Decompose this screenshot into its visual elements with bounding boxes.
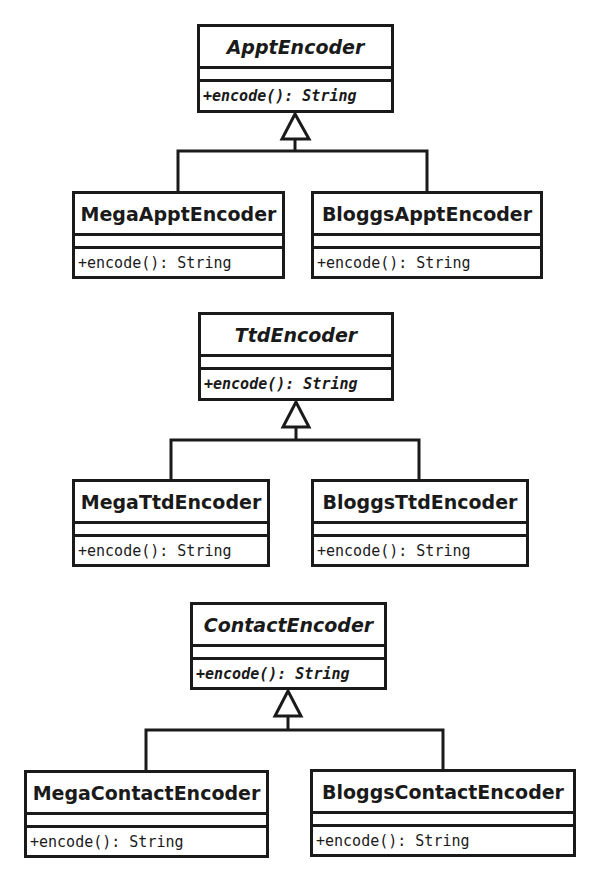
operation: +encode(): String [75,249,282,276]
class-ttd-encoder[interactable]: TtdEncoder +encode(): String [198,312,394,401]
attributes-compartment [313,814,573,827]
generalization-arrow-icon [275,691,301,716]
operation: +encode(): String [75,537,267,564]
generalization-arrow-icon [282,114,309,139]
class-mega-appt-encoder[interactable]: MegaApptEncoder +encode(): String [72,191,285,279]
operation: +encode(): String [201,370,391,398]
inheritance-connectors [0,0,599,888]
operation: +encode(): String [200,82,391,110]
class-name: MegaApptEncoder [75,194,282,236]
class-name: ContactEncoder [193,605,384,647]
class-mega-contact-encoder[interactable]: MegaContactEncoder +encode(): String [24,770,269,858]
attributes-compartment [201,357,391,370]
class-name: ApptEncoder [200,27,391,69]
attributes-compartment [314,236,540,249]
attributes-compartment [200,69,391,82]
attributes-compartment [75,236,282,249]
operation: +encode(): String [193,660,384,687]
class-name: MegaContactEncoder [27,773,266,815]
class-bloggs-ttd-encoder[interactable]: BloggsTtdEncoder +encode(): String [311,479,529,567]
class-appt-encoder[interactable]: ApptEncoder +encode(): String [197,24,394,113]
operation: +encode(): String [314,249,540,276]
attributes-compartment [27,815,266,828]
attributes-compartment [314,524,526,537]
class-name: BloggsApptEncoder [314,194,540,236]
class-bloggs-appt-encoder[interactable]: BloggsApptEncoder +encode(): String [311,191,543,279]
attributes-compartment [75,524,267,537]
operation: +encode(): String [27,828,266,855]
class-contact-encoder[interactable]: ContactEncoder +encode(): String [190,602,387,690]
operation: +encode(): String [314,537,526,564]
generalization-arrow-icon [283,402,309,427]
class-bloggs-contact-encoder[interactable]: BloggsContactEncoder +encode(): String [310,769,576,857]
class-name: TtdEncoder [201,315,391,357]
attributes-compartment [193,647,384,660]
class-name: BloggsContactEncoder [313,772,573,814]
operation: +encode(): String [313,827,573,854]
class-mega-ttd-encoder[interactable]: MegaTtdEncoder +encode(): String [72,479,270,567]
class-name: BloggsTtdEncoder [314,482,526,524]
class-name: MegaTtdEncoder [75,482,267,524]
